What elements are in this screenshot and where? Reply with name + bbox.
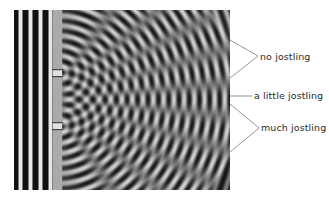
interference-figure: no jostling a little jostling much jostl… — [0, 0, 329, 204]
interference-diagram — [0, 0, 329, 204]
bottom-slit — [53, 123, 62, 129]
label-no-jostling: no jostling — [260, 52, 310, 62]
slit-barrier — [52, 10, 63, 190]
leader-no-jostling — [230, 40, 258, 78]
top-slit — [53, 70, 62, 76]
plane-waves — [14, 10, 54, 190]
wave-image — [0, 0, 247, 204]
label-much-jostling: much jostling — [261, 123, 326, 133]
leader-much-jostling — [230, 104, 259, 152]
label-little-jostling: a little jostling — [254, 91, 323, 101]
